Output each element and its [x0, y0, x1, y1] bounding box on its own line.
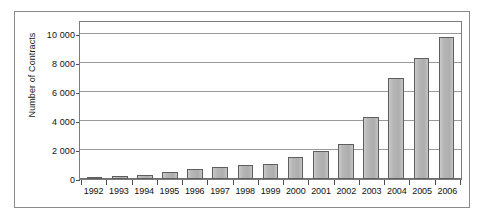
- y-axis-tick-labels: 02 0004 0006 0008 00010 000: [29, 12, 75, 207]
- x-tick-mark: [308, 180, 309, 185]
- bar[interactable]: [338, 144, 354, 179]
- bar[interactable]: [187, 169, 203, 179]
- bar-slot: [258, 22, 283, 179]
- x-tick-mark: [233, 180, 234, 185]
- x-tick-mark: [409, 180, 410, 185]
- bar-slot: [208, 22, 233, 179]
- x-tick-label: 2005: [409, 186, 434, 196]
- bar[interactable]: [137, 175, 153, 179]
- x-tick-mark: [106, 180, 107, 185]
- x-tick-label: 1997: [207, 186, 232, 196]
- bar[interactable]: [363, 117, 379, 179]
- bar[interactable]: [162, 172, 178, 179]
- x-tick-mark: [132, 180, 133, 185]
- x-tick-label: 2003: [359, 186, 384, 196]
- y-tick-label: 10 000: [47, 30, 75, 40]
- y-tick-label: 0: [70, 175, 75, 185]
- bar-slot: [333, 22, 358, 179]
- x-axis: 1992199319941995199619971998199920002001…: [79, 180, 462, 208]
- x-tick-label: 1999: [258, 186, 283, 196]
- x-tick-label: 2001: [308, 186, 333, 196]
- bar[interactable]: [414, 58, 430, 179]
- y-tick-label: 2 000: [52, 146, 75, 156]
- bar[interactable]: [112, 176, 128, 179]
- bar[interactable]: [263, 164, 279, 179]
- bar-slot: [359, 22, 384, 179]
- x-tick-label: 1996: [182, 186, 207, 196]
- bar[interactable]: [388, 78, 404, 179]
- bar-slot: [308, 22, 333, 179]
- x-tick-mark: [334, 180, 335, 185]
- bar[interactable]: [87, 177, 103, 179]
- bar[interactable]: [313, 151, 329, 179]
- x-tick-mark: [182, 180, 183, 185]
- x-tick-label: 2004: [384, 186, 409, 196]
- bar-slot: [384, 22, 409, 179]
- x-tick-label: 2002: [334, 186, 359, 196]
- y-tick-label: 8 000: [52, 59, 75, 69]
- bar-series: [80, 22, 461, 179]
- x-tick-mark: [359, 180, 360, 185]
- x-tick-label: 1994: [132, 186, 157, 196]
- x-tick-mark: [435, 180, 436, 185]
- y-tick-label: 4 000: [52, 117, 75, 127]
- bar-slot: [434, 22, 459, 179]
- x-tick-label: 1992: [81, 186, 106, 196]
- x-tick-mark: [81, 180, 82, 185]
- x-tick-mark: [207, 180, 208, 185]
- x-axis-tick-labels: 1992199319941995199619971998199920002001…: [79, 186, 462, 196]
- bar[interactable]: [212, 167, 228, 179]
- x-tick-mark: [384, 180, 385, 185]
- x-tick-mark: [283, 180, 284, 185]
- x-axis-tick-marks: [79, 180, 462, 185]
- x-tick-mark: [157, 180, 158, 185]
- bar-slot: [82, 22, 107, 179]
- bar-slot: [183, 22, 208, 179]
- x-tick-label: 2000: [283, 186, 308, 196]
- chart-frame: Number of Contracts 02 0004 0006 0008 00…: [14, 11, 470, 208]
- bar[interactable]: [439, 37, 455, 179]
- x-tick-mark: [460, 180, 461, 185]
- bar[interactable]: [238, 165, 254, 179]
- bar-slot: [283, 22, 308, 179]
- x-tick-label: 2006: [435, 186, 460, 196]
- bar-slot: [132, 22, 157, 179]
- x-tick-label: 1998: [233, 186, 258, 196]
- bar[interactable]: [288, 157, 304, 179]
- x-tick-label: 1993: [106, 186, 131, 196]
- x-tick-label: 1995: [157, 186, 182, 196]
- bar-slot: [409, 22, 434, 179]
- plot-area: [79, 21, 462, 180]
- bar-slot: [107, 22, 132, 179]
- bar-slot: [157, 22, 182, 179]
- y-tick-label: 6 000: [52, 88, 75, 98]
- bar-slot: [233, 22, 258, 179]
- x-tick-mark: [258, 180, 259, 185]
